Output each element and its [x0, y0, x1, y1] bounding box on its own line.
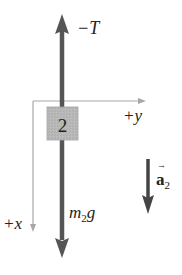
tension-arrowhead-icon	[55, 14, 69, 34]
tension-force-arrow	[55, 14, 69, 108]
body-label: 2	[58, 115, 68, 136]
acceleration-arrow	[142, 159, 154, 214]
body-block: 2	[47, 107, 78, 140]
y-axis-arrowhead-icon	[138, 98, 146, 104]
acceleration-label: a2	[156, 170, 170, 191]
tension-label: −T	[77, 18, 101, 38]
free-body-diagram: 2 −T +y +x m2g → a2	[0, 0, 182, 275]
weight-label-g: g	[87, 203, 96, 222]
weight-arrowhead-icon	[55, 238, 69, 258]
acceleration-vector-mark: →	[157, 160, 166, 170]
x-axis-arrowhead-icon	[30, 224, 36, 232]
weight-label-m: m	[69, 203, 81, 222]
weight-label: m2g	[69, 203, 95, 224]
weight-force-arrow	[55, 140, 69, 258]
y-axis-label: +y	[123, 106, 142, 125]
x-axis-label: +x	[3, 214, 22, 233]
acceleration-label-sub: 2	[165, 179, 171, 191]
